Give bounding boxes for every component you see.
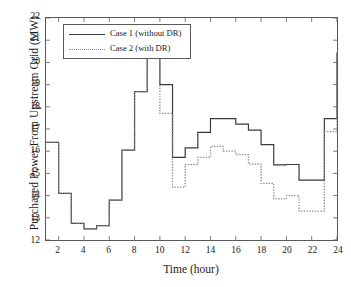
y-tick-label: 22	[14, 11, 40, 21]
y-tick-label: 21	[14, 33, 40, 43]
legend-item-case-2: Case 2 (with DR)	[64, 42, 190, 58]
y-tick-label: 18	[14, 101, 40, 111]
series-line-case-1	[46, 52, 337, 229]
x-tick-label: 12	[174, 245, 196, 255]
legend-label-case-1: Case 1 (without DR)	[110, 28, 181, 38]
y-tick-label: 20	[14, 56, 40, 66]
chart-legend: Case 1 (without DR) Case 2 (with DR)	[63, 24, 191, 59]
x-tick-label: 14	[200, 245, 222, 255]
x-tick-label: 22	[302, 245, 324, 255]
x-tick-label: 20	[276, 245, 298, 255]
x-axis-label: Time (hour)	[44, 263, 338, 275]
x-tick-label: 8	[123, 245, 145, 255]
x-tick-label: 2	[47, 245, 69, 255]
x-tick-label: 4	[72, 245, 94, 255]
x-tick-label: 24	[327, 245, 349, 255]
series-line-case-2	[46, 52, 337, 229]
x-tick-label: 18	[251, 245, 273, 255]
y-tick-label: 12	[14, 235, 40, 245]
y-tick-label: 13	[14, 213, 40, 223]
legend-label-case-2: Case 2 (with DR)	[110, 43, 170, 53]
x-tick-label: 10	[149, 245, 171, 255]
y-tick-label: 14	[14, 190, 40, 200]
legend-line-sample-dotted-icon	[69, 49, 105, 52]
y-tick-label: 17	[14, 123, 40, 133]
y-tick-label: 15	[14, 168, 40, 178]
chart-figure: Purchased Power From Upstream Grid (MW) …	[0, 0, 351, 287]
legend-line-sample-solid-icon	[69, 34, 105, 37]
y-tick-label: 16	[14, 145, 40, 155]
y-tick-label: 19	[14, 78, 40, 88]
x-tick-label: 16	[225, 245, 247, 255]
legend-item-case-1: Case 1 (without DR)	[64, 27, 190, 43]
x-tick-label: 6	[98, 245, 120, 255]
